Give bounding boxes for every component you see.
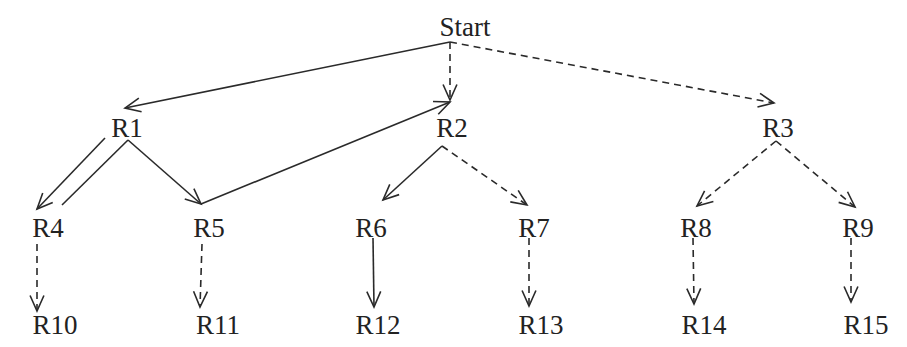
node-r12: R12 <box>355 310 400 340</box>
edge-r3-r9 <box>776 141 855 207</box>
node-r7: R7 <box>518 213 550 243</box>
edge-r2-r7 <box>442 146 527 205</box>
edge-r6-r12 <box>373 238 374 307</box>
edge-r2-r6 <box>383 146 442 200</box>
node-r10: R10 <box>32 310 77 340</box>
node-r3: R3 <box>762 113 794 143</box>
node-r15: R15 <box>843 310 888 340</box>
nodes-layer: Start R1 R2 R3 R4 R5 R6 R7 R8 R9 R10 R11… <box>32 12 888 340</box>
node-r4: R4 <box>32 213 64 243</box>
edge-r3-r8 <box>697 141 776 206</box>
node-r9: R9 <box>842 213 874 243</box>
edge-r1-r5 <box>128 140 201 204</box>
node-r2: R2 <box>436 113 468 143</box>
edge-start-r3 <box>450 42 774 103</box>
node-start: Start <box>440 12 491 42</box>
edge-r8-r14 <box>693 238 694 304</box>
edge-r5-r11 <box>200 244 202 307</box>
node-r5: R5 <box>193 213 225 243</box>
node-r8: R8 <box>680 213 712 243</box>
node-r11: R11 <box>196 310 240 340</box>
edges-layer <box>30 42 858 311</box>
node-r14: R14 <box>681 310 727 340</box>
node-r6: R6 <box>355 213 387 243</box>
edge-r5-r2 <box>201 102 450 204</box>
node-r1: R1 <box>111 113 143 143</box>
tree-diagram: Start R1 R2 R3 R4 R5 R6 R7 R8 R9 R10 R11… <box>0 0 907 347</box>
edge-start-r1 <box>125 42 450 108</box>
node-r13: R13 <box>518 310 563 340</box>
